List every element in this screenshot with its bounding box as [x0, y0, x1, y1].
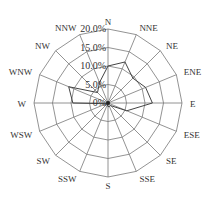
grid-spoke — [108, 103, 160, 155]
direction-label-n: N — [105, 17, 112, 27]
direction-label-ssw: SSW — [58, 174, 77, 184]
direction-label-sse: SSE — [139, 174, 155, 184]
direction-label-ene: ENE — [184, 67, 202, 77]
radial-tick-label: 15.0% — [80, 42, 106, 53]
grid-spoke — [56, 103, 108, 155]
direction-label-wnw: WNW — [9, 67, 33, 77]
direction-label-nnw: NNW — [55, 23, 77, 33]
direction-label-ese: ESE — [184, 130, 201, 140]
radial-tick-label: 10.0% — [80, 60, 106, 71]
direction-label-ne: NE — [166, 41, 178, 51]
grid-spoke — [108, 51, 160, 103]
radial-tick-label: 5.0% — [85, 79, 106, 90]
grid-spoke — [56, 51, 108, 103]
direction-label-e: E — [190, 99, 196, 109]
direction-label-sw: SW — [37, 156, 51, 166]
direction-label-wsw: WSW — [10, 130, 33, 140]
radial-tick-label: 20.0% — [80, 23, 106, 34]
direction-label-s: S — [105, 181, 110, 191]
center-marker — [106, 101, 110, 105]
direction-label-w: W — [18, 99, 27, 109]
radial-tick-label: 0% — [93, 97, 106, 108]
direction-label-nw: NW — [35, 41, 50, 51]
wind-rose-chart: 0%5.0%10.0%15.0%20.0%NNNENEENEEESESESSES… — [0, 0, 208, 199]
direction-label-se: SE — [166, 156, 177, 166]
direction-label-nne: NNE — [139, 23, 158, 33]
